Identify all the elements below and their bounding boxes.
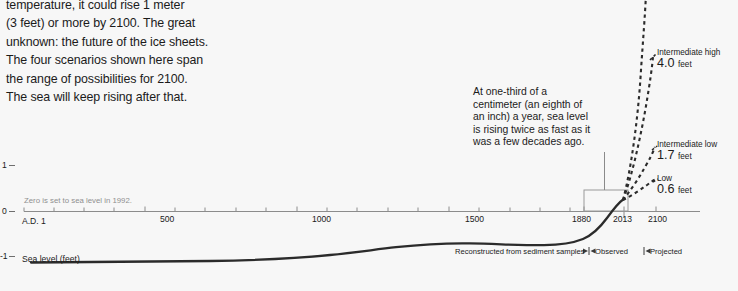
x-axis-ticks [24, 207, 656, 219]
x-tick-label-ad-1: A.D. 1 [22, 216, 46, 226]
callout-line-1: At one-third of a [473, 86, 623, 99]
scenario-label-low: Low 0.6 feet [657, 174, 692, 197]
y-tick-label-1: 1 [2, 160, 7, 170]
x-tick-label-2100: 2100 [648, 214, 667, 224]
period-label-observed: Observed [595, 247, 628, 256]
x-tick-label-1880: 1880 [572, 214, 591, 224]
zero-baseline-note: Zero is set to sea level in 1992. [24, 196, 132, 205]
scenario-value: 0.6 feet [657, 183, 692, 197]
scenario-value-unit: feet [678, 60, 692, 69]
scenario-value-number: 1.7 [657, 148, 675, 162]
period-label-projected: Projected [650, 247, 682, 256]
scenario-value-unit: feet [678, 186, 692, 195]
x-tick-label-2013: 2013 [613, 214, 632, 224]
scenario-value-number: 0.6 [657, 182, 675, 196]
y-tick-label-neg-1: -1 [0, 251, 8, 261]
scenario-value-unit: feet [678, 152, 692, 161]
period-label-reconstructed: Reconstructed from sediment samples [455, 247, 585, 256]
scenario-label-intermediate-low: Intermediate low 1.7 feet [657, 140, 717, 163]
scenario-value-number: 4.0 [657, 56, 675, 70]
x-tick-label-1000: 1000 [312, 214, 331, 224]
scenario-value: 4.0 feet [657, 57, 720, 71]
y-axis-ticks [9, 166, 15, 257]
scenario-value: 1.7 feet [657, 149, 717, 163]
scenario-intermediate-low-line [623, 147, 655, 200]
rate-of-rise-callout: At one-third of a centimeter (an eighth … [473, 86, 623, 149]
y-axis-title: Sea level (feet) [22, 254, 80, 264]
callout-line-5: was a few decades ago. [473, 136, 623, 149]
sea-level-infographic: temperature, it could rise 1 meter (3 fe… [0, 0, 738, 291]
scenario-label-intermediate-high: Intermediate high 4.0 feet [657, 48, 720, 71]
x-tick-label-500: 500 [160, 214, 174, 224]
x-tick-label-1500: 1500 [465, 214, 484, 224]
callout-line-4: is rising twice as fast as it [473, 124, 623, 137]
y-tick-label-0: 0 [2, 206, 7, 216]
callout-line-2: centimeter (an eighth of [473, 99, 623, 112]
callout-line-3: an inch) a year, sea level [473, 111, 623, 124]
